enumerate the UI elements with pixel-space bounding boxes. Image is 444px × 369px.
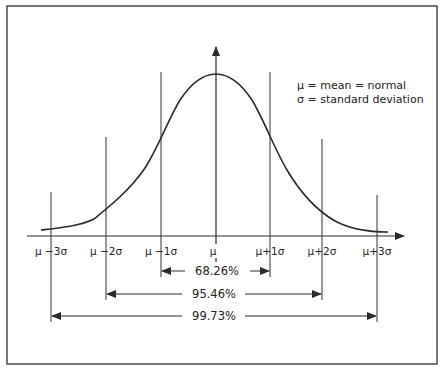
range-95-label: 95.46% — [192, 287, 236, 301]
label-mu-minus-3sigma: μ −3σ — [35, 245, 67, 257]
normal-distribution-diagram: μ −3σ μ −2σ μ −1σ μ μ+1σ μ+2σ μ+3σ 68.26… — [0, 0, 444, 369]
label-mu-plus-3sigma: μ+3σ — [363, 245, 392, 257]
legend-mean: μ = mean = normal — [297, 79, 406, 92]
range-68-label: 68.26% — [195, 264, 239, 278]
label-mu-plus-2sigma: μ+2σ — [308, 245, 337, 257]
legend-sigma: σ = standard deviation — [297, 93, 424, 106]
label-mu-minus-1sigma: μ −1σ — [145, 245, 177, 257]
range-99-label: 99.73% — [192, 309, 236, 323]
label-mu: μ — [210, 245, 217, 257]
label-mu-plus-1sigma: μ+1σ — [256, 245, 285, 257]
label-mu-minus-2sigma: μ −2σ — [90, 245, 122, 257]
